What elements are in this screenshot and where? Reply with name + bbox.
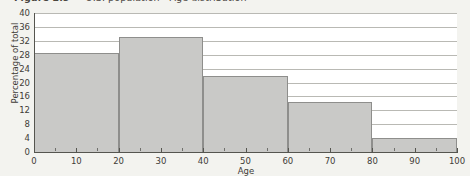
x-tick-minor: [182, 148, 183, 151]
x-tick-label: 10: [61, 156, 91, 166]
x-tick-major: [203, 148, 204, 152]
x-tick-major: [330, 148, 331, 152]
figure-caption: Figure 2.5U.S. population - Age distribu…: [14, 0, 454, 6]
x-tick-major: [288, 148, 289, 152]
x-axis-title: Age: [34, 166, 458, 176]
gridline: [34, 13, 457, 14]
x-tick-minor: [436, 148, 437, 151]
x-tick-label: 80: [357, 156, 387, 166]
plot-area: [34, 13, 457, 152]
x-tick-label: 50: [231, 156, 261, 166]
x-axis-line: [34, 152, 458, 153]
x-tick-label: 70: [315, 156, 345, 166]
x-tick-major: [246, 148, 247, 152]
x-tick-minor: [224, 148, 225, 151]
x-tick-major: [161, 148, 162, 152]
x-tick-label: 20: [104, 156, 134, 166]
x-tick-major: [76, 148, 77, 152]
x-tick-label: 40: [188, 156, 218, 166]
gridline: [34, 27, 457, 28]
x-tick-major: [415, 148, 416, 152]
x-tick-label: 100: [442, 156, 470, 166]
x-tick-minor: [140, 148, 141, 151]
histogram-bar: [203, 76, 288, 152]
x-tick-label: 30: [146, 156, 176, 166]
y-axis-title: Percentage of total: [10, 8, 20, 118]
x-tick-minor: [351, 148, 352, 151]
histogram-bar: [288, 102, 373, 152]
gridline: [34, 41, 457, 42]
y-tick-label: 8: [4, 120, 30, 128]
x-tick-major: [372, 148, 373, 152]
x-tick-label: 60: [273, 156, 303, 166]
x-tick-label: 90: [400, 156, 430, 166]
y-tick-label: 0: [4, 148, 30, 156]
histogram-bar: [34, 53, 119, 152]
x-tick-minor: [97, 148, 98, 151]
histogram-bar: [119, 37, 204, 152]
y-tick-label: 4: [4, 134, 30, 142]
x-tick-minor: [309, 148, 310, 151]
x-tick-major: [34, 148, 35, 152]
y-axis-line: [34, 13, 35, 153]
x-tick-major: [457, 148, 458, 152]
figure-caption-text: U.S. population - Age distribution: [86, 0, 247, 3]
x-tick-minor: [55, 148, 56, 151]
x-tick-major: [119, 148, 120, 152]
x-tick-label: 0: [19, 156, 49, 166]
x-tick-minor: [394, 148, 395, 151]
x-tick-minor: [267, 148, 268, 151]
